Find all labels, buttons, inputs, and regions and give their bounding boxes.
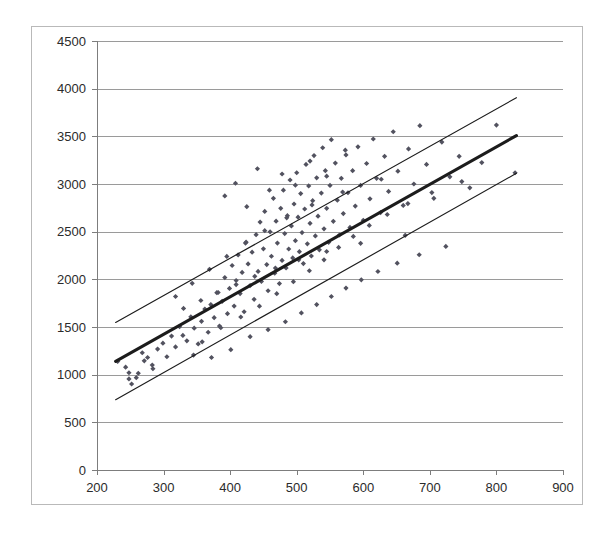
data-point <box>321 226 326 231</box>
axes-group <box>97 41 563 471</box>
data-point <box>250 250 255 255</box>
data-point <box>329 137 334 142</box>
data-point <box>313 233 318 238</box>
y-tick-label-4000: 4000 <box>57 81 86 96</box>
data-point <box>333 160 338 165</box>
data-point <box>336 245 341 250</box>
data-point <box>310 198 315 203</box>
scatter-plot: 050010001500200025003000350040004500 200… <box>0 0 616 533</box>
data-point <box>262 209 267 214</box>
data-point <box>367 223 372 228</box>
y-tick-label-500: 500 <box>64 415 86 430</box>
data-point <box>279 258 284 263</box>
data-point <box>173 344 178 349</box>
tickmarks-group <box>92 42 564 476</box>
data-point <box>287 177 292 182</box>
data-point <box>302 206 307 211</box>
data-point <box>359 277 364 282</box>
data-point <box>233 181 238 186</box>
data-point <box>230 263 235 268</box>
data-point <box>140 350 145 355</box>
data-point <box>327 183 332 188</box>
data-point <box>265 288 270 293</box>
data-point <box>227 286 232 291</box>
data-point <box>329 294 334 299</box>
data-point <box>209 355 214 360</box>
data-point <box>126 370 131 375</box>
data-point <box>467 185 472 190</box>
data-point <box>142 358 147 363</box>
data-point <box>267 229 272 234</box>
data-point <box>184 338 189 343</box>
x-tick-label-300: 300 <box>153 480 175 495</box>
data-point <box>232 303 237 308</box>
y-tick-label-1500: 1500 <box>57 320 86 335</box>
data-point <box>248 334 253 339</box>
data-point <box>293 183 298 188</box>
data-point <box>180 333 185 338</box>
data-point <box>386 189 391 194</box>
data-point <box>155 347 160 352</box>
data-point <box>271 196 276 201</box>
x-tick-label-200: 200 <box>86 480 108 495</box>
data-point <box>252 274 257 279</box>
data-point <box>129 381 134 386</box>
data-point <box>324 206 329 211</box>
data-point <box>494 122 499 127</box>
data-point <box>225 311 230 316</box>
data-point <box>309 253 314 258</box>
data-point <box>343 286 348 291</box>
data-point <box>319 190 324 195</box>
data-point <box>314 175 319 180</box>
data-point <box>244 204 249 209</box>
fit-lines-group <box>116 98 517 400</box>
data-point <box>364 161 369 166</box>
data-point <box>320 145 325 150</box>
data-point <box>190 281 195 286</box>
data-point <box>417 123 422 128</box>
data-point <box>343 148 348 153</box>
data-point <box>293 238 298 243</box>
data-point <box>299 230 304 235</box>
data-point <box>431 196 436 201</box>
data-point <box>405 201 410 206</box>
x-tick-label-500: 500 <box>286 480 308 495</box>
data-point <box>199 319 204 324</box>
data-point <box>198 298 203 303</box>
data-point <box>169 333 174 338</box>
data-point <box>341 211 346 216</box>
data-point <box>307 221 312 226</box>
data-point <box>269 254 274 259</box>
data-point <box>246 261 251 266</box>
data-point <box>181 306 186 311</box>
data-point <box>395 261 400 266</box>
data-point <box>278 206 283 211</box>
data-point <box>382 154 387 159</box>
data-point <box>234 282 239 287</box>
data-point <box>267 188 272 193</box>
x-tick-label-600: 600 <box>352 480 374 495</box>
x-tick-label-400: 400 <box>219 480 241 495</box>
data-point <box>242 309 247 314</box>
data-point <box>240 270 245 275</box>
data-point <box>283 319 288 324</box>
y-tick-label-2500: 2500 <box>57 224 86 239</box>
data-point <box>256 269 261 274</box>
data-point <box>275 241 280 246</box>
data-point <box>258 219 263 224</box>
data-point <box>254 232 259 237</box>
data-point <box>134 375 139 380</box>
data-point <box>228 347 233 352</box>
data-point <box>379 177 384 182</box>
data-point <box>255 166 260 171</box>
data-point <box>459 179 464 184</box>
data-point <box>339 176 344 181</box>
data-point <box>277 281 282 286</box>
data-point <box>367 196 372 201</box>
data-point <box>315 214 320 219</box>
data-point <box>150 366 155 371</box>
data-point <box>286 246 291 251</box>
y-tick-label-2000: 2000 <box>57 272 86 287</box>
gridlines-group <box>97 42 563 471</box>
data-point <box>206 330 211 335</box>
